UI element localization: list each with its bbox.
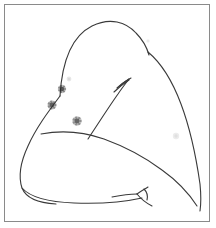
- scan-canvas: Hand-drawn outline of a torso seen from …: [0, 0, 216, 228]
- lesion-mark-2: [47, 100, 56, 109]
- faint-mark-shoulder: [146, 39, 150, 43]
- faint-mark-right: [173, 133, 179, 139]
- line-drawing-figure: [0, 0, 216, 228]
- lesion-mark-3: [72, 116, 82, 126]
- page-background: [0, 0, 216, 228]
- faint-mark-upper: [67, 77, 72, 82]
- lesion-mark-1: [58, 85, 66, 93]
